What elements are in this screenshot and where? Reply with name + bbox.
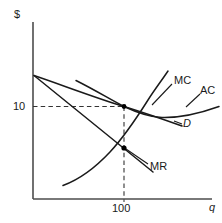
- mr-leader-line: [126, 149, 148, 164]
- monopolistic-competition-chart: $ 10 100 q MC AC D MR: [0, 0, 222, 223]
- y-tick-label-10: 10: [13, 101, 25, 112]
- x-tick-label-100: 100: [112, 203, 130, 214]
- mr-mc-intersection-marker: [121, 145, 126, 150]
- x-axis-label: q: [209, 202, 215, 213]
- mc-curve-label: MC: [174, 75, 191, 86]
- ac-curve-label: AC: [200, 85, 215, 96]
- tangency-point-marker: [122, 104, 127, 109]
- chart-canvas: [0, 0, 222, 223]
- y-axis-label: $: [14, 9, 20, 20]
- mc-leader-line: [152, 84, 172, 105]
- ac-curve: [76, 81, 219, 118]
- marginal-revenue-label: MR: [150, 161, 167, 172]
- demand-curve-label: D: [183, 118, 191, 129]
- ac-leader-line: [186, 94, 200, 107]
